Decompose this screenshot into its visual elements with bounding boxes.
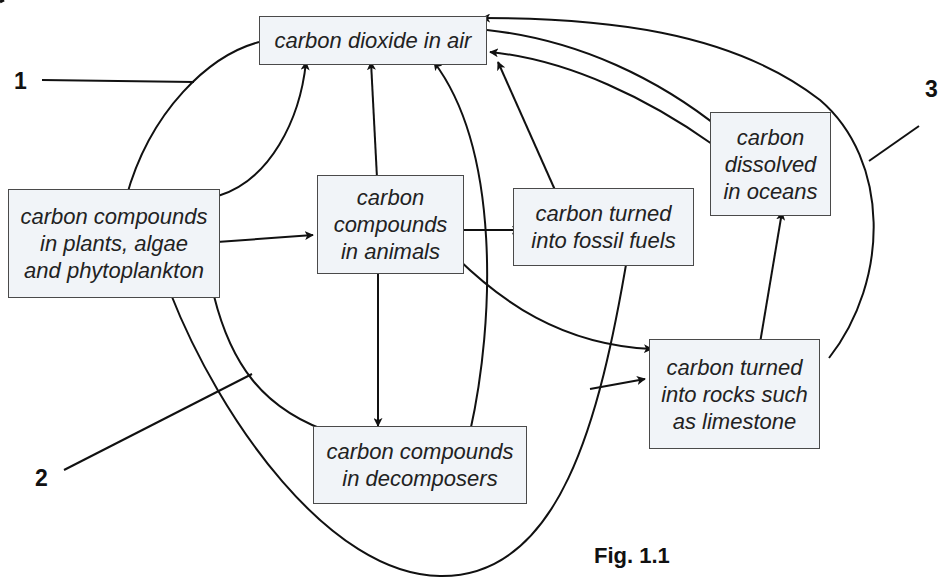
- partial-mark: [0, 0, 4, 2]
- node-decomposers: carbon compounds in decomposers: [313, 426, 527, 504]
- figure-caption: Fig. 1.1: [594, 543, 670, 569]
- node-oceans: carbon dissolved in oceans: [710, 112, 831, 216]
- label-3-line: [869, 126, 919, 161]
- arrow-animals-to-air: [371, 62, 377, 178]
- label-1-line: [42, 80, 194, 82]
- arrow-plants-to-animals: [217, 235, 313, 242]
- node-co2-air: carbon dioxide in air: [259, 16, 487, 65]
- label-1: 1: [14, 68, 27, 95]
- label-3: 3: [925, 76, 938, 103]
- arrow-air-to-plants: [126, 42, 259, 198]
- label-2-line: [64, 374, 252, 470]
- arrow-plants-to-air: [218, 62, 306, 196]
- arrow-rocks-to-oceans: [760, 212, 782, 343]
- arrow-fossil-to-air: [498, 62, 555, 190]
- node-fossil-fuels: carbon turned into fossil fuels: [513, 188, 694, 266]
- node-plants: carbon compounds in plants, algae and ph…: [8, 189, 220, 298]
- arrow-plants-to-fossil: [170, 253, 628, 576]
- label-2: 2: [35, 465, 48, 492]
- arrow-branch-to-rocks: [590, 379, 645, 389]
- node-animals: carbon compounds in animals: [317, 175, 464, 274]
- node-rocks: carbon turned into rocks such as limesto…: [649, 339, 820, 449]
